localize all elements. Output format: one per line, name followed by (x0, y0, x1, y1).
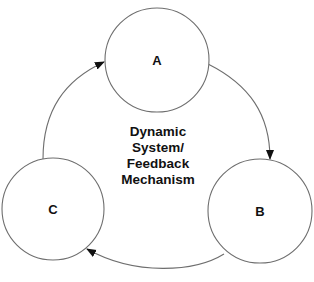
node-c: C (2, 158, 104, 260)
node-c-label: C (48, 202, 58, 217)
node-b-label: B (255, 204, 264, 219)
center-label: Dynamic System/ Feedback Mechanism (121, 124, 195, 187)
node-a-label: A (152, 53, 162, 68)
center-label-line-1: Dynamic (130, 124, 187, 139)
edge-a-to-b-arrow (208, 64, 270, 159)
center-label-line-3: Feedback (127, 156, 190, 171)
center-label-line-2: System/ (132, 140, 184, 155)
edge-c-to-a-arrow (43, 62, 104, 159)
center-label-line-4: Mechanism (121, 172, 195, 187)
feedback-cycle-diagram: A B C Dynamic System/ Feedback Mechanism (0, 0, 314, 282)
node-b: B (208, 159, 312, 263)
node-a: A (105, 8, 209, 112)
edge-b-to-c-arrow (87, 249, 224, 268)
